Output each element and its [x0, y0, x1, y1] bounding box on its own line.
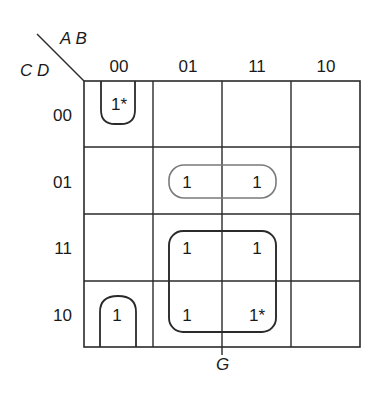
row-header-11: 11 [32, 240, 72, 257]
row-header-01: 01 [32, 174, 72, 191]
cell-r3-c1: 1 [182, 307, 191, 324]
column-header-01: 01 [179, 58, 198, 75]
column-variables-label: A B [60, 30, 87, 47]
karnaugh-map-diagram: A B C D 00 01 11 10 00 01 11 10 1* 1 1 1… [0, 0, 384, 393]
cell-r3-c0: 1 [112, 307, 121, 324]
column-header-11: 11 [248, 58, 266, 75]
cell-r1-c2: 1 [252, 174, 261, 191]
column-header-10: 10 [317, 58, 336, 75]
cell-r0-c0: 1* [111, 96, 127, 113]
cell-r2-c1: 1 [182, 240, 191, 257]
cell-r3-c2: 1* [249, 307, 265, 324]
cell-r2-c2: 1 [252, 240, 261, 257]
row-header-00: 00 [32, 107, 72, 124]
row-header-10: 10 [32, 307, 72, 324]
group-label-g: G [216, 356, 229, 373]
cell-r1-c1: 1 [182, 174, 191, 191]
column-header-00: 00 [110, 58, 129, 75]
row-variables-label: C D [20, 62, 49, 79]
